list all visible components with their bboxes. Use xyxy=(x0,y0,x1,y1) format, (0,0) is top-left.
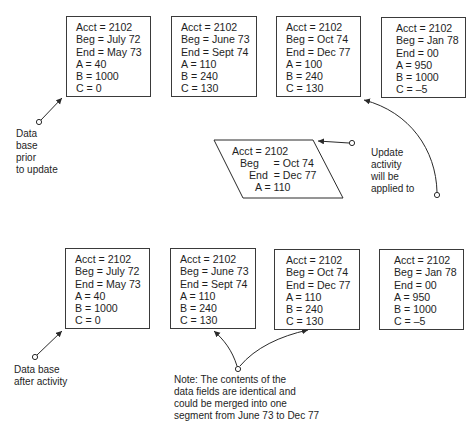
field-b: B = 1000 xyxy=(394,303,463,315)
label-line: Data xyxy=(16,128,58,140)
note-arrow-left xyxy=(214,331,237,366)
field-beg: Beg = June 73 xyxy=(180,265,255,277)
before-record-2: Acct = 2102 Beg = June 73 End = Sept 74 … xyxy=(171,16,257,97)
field-a: A = 110 xyxy=(181,58,256,70)
field-acct: Acct = 2102 xyxy=(286,21,360,33)
before-label: Data base prior to update xyxy=(16,128,58,176)
field-beg: Beg = July 72 xyxy=(75,265,149,277)
before-record-1: Acct = 2102 Beg = July 72 End = May 73 A… xyxy=(66,16,151,97)
field-a: A = 100 xyxy=(286,58,360,70)
field-end: End = Dec 77 xyxy=(249,169,316,181)
field-a: A = 950 xyxy=(394,291,463,303)
field-b: B = 1000 xyxy=(75,302,149,314)
field-end: End = Sept 74 xyxy=(180,278,255,290)
merge-note: Note: The contents of the data fields ar… xyxy=(174,374,319,422)
note-line: Note: The contents of the xyxy=(174,374,319,386)
label-line: after activity xyxy=(14,376,67,388)
field-c: C = 130 xyxy=(286,82,360,94)
field-beg: Beg = Oct 74 xyxy=(286,33,360,45)
field-beg: Beg = Oct 74 xyxy=(240,157,314,169)
field-a: A = 110 xyxy=(255,181,290,193)
before-record-3: Acct = 2102 Beg = Oct 74 End = Dec 77 A … xyxy=(276,16,361,97)
note-dot xyxy=(235,366,240,371)
field-c: C = –5 xyxy=(396,83,465,95)
note-line: segment from June 73 to Dec 77 xyxy=(174,410,319,422)
after-pointer-dot xyxy=(32,354,37,359)
after-record-4: Acct = 2102 Beg = Jan 78 End = 00 A = 95… xyxy=(379,249,464,330)
update-label: Update activity will be applied to xyxy=(371,147,414,195)
field-b: B = 240 xyxy=(181,70,256,82)
field-b: B = 240 xyxy=(286,70,360,82)
field-acct: Acct = 2102 xyxy=(286,254,359,266)
field-acct: Acct = 2102 xyxy=(396,22,465,34)
field-c: C = –5 xyxy=(394,315,463,327)
label-line: Data base xyxy=(14,364,67,376)
after-record-2: Acct = 2102 Beg = June 73 End = Sept 74 … xyxy=(170,248,256,329)
field-acct: Acct = 2102 xyxy=(181,21,256,33)
field-beg: Beg = Jan 78 xyxy=(396,34,465,46)
field-end: End = 00 xyxy=(396,47,465,59)
after-record-3: Acct = 2102 Beg = Oct 74 End = Dec 77 A … xyxy=(274,249,360,330)
after-pointer-arrow xyxy=(37,331,62,355)
field-b: B = 1000 xyxy=(76,70,150,82)
field-end: End = 00 xyxy=(394,279,463,291)
update-pointer-dot xyxy=(349,140,354,145)
note-line: could be merged into one xyxy=(174,398,319,410)
field-end: End = May 73 xyxy=(76,46,150,58)
field-b: B = 1000 xyxy=(396,71,465,83)
field-c: C = 0 xyxy=(76,82,150,94)
field-c: C = 130 xyxy=(180,314,255,326)
label-line: will be xyxy=(371,171,414,183)
field-c: C = 130 xyxy=(286,315,359,327)
field-a: A = 40 xyxy=(76,58,150,70)
label-line: applied to xyxy=(371,183,414,195)
field-acct: Acct = 2102 xyxy=(75,253,149,265)
field-a: A = 110 xyxy=(286,291,359,303)
field-end: End = Dec 77 xyxy=(286,279,359,291)
label-line: base xyxy=(16,140,58,152)
field-acct: Acct = 2102 xyxy=(180,253,255,265)
field-end: End = Dec 77 xyxy=(286,46,360,58)
field-acct: Acct = 2102 xyxy=(76,21,150,33)
before-pointer-arrow xyxy=(41,98,62,120)
field-beg: Beg = Jan 78 xyxy=(394,266,463,278)
field-acct: Acct = 2102 xyxy=(232,145,288,157)
field-beg: Beg = June 73 xyxy=(181,33,256,45)
note-arrow-right xyxy=(240,330,308,366)
after-record-1: Acct = 2102 Beg = July 72 End = May 73 A… xyxy=(65,248,150,329)
label-line: prior xyxy=(16,152,58,164)
before-pointer-dot xyxy=(36,119,41,124)
field-a: A = 110 xyxy=(180,290,255,302)
field-acct: Acct = 2102 xyxy=(394,254,463,266)
label-line: to update xyxy=(16,164,58,176)
field-c: C = 0 xyxy=(75,314,149,326)
label-line: activity xyxy=(371,159,414,171)
field-b: B = 240 xyxy=(180,302,255,314)
field-b: B = 240 xyxy=(286,303,359,315)
after-label: Data base after activity xyxy=(14,364,67,388)
field-a: A = 40 xyxy=(75,290,149,302)
field-end: End = May 73 xyxy=(75,278,149,290)
field-a: A = 950 xyxy=(396,59,465,71)
field-beg: Beg = July 72 xyxy=(76,33,150,45)
before-record-4: Acct = 2102 Beg = Jan 78 End = 00 A = 95… xyxy=(381,17,466,98)
note-line: data fields are identical and xyxy=(174,386,319,398)
field-c: C = 130 xyxy=(181,82,256,94)
applied-to-dot xyxy=(434,192,439,197)
field-beg: Beg = Oct 74 xyxy=(286,266,359,278)
label-line: Update xyxy=(371,147,414,159)
field-end: End = Sept 74 xyxy=(181,46,256,58)
update-pointer-arrow xyxy=(318,141,349,143)
